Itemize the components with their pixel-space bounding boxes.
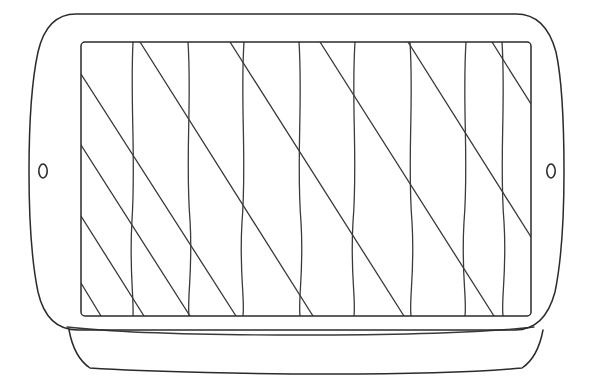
vertical-ribs-group — [131, 42, 505, 316]
diagonal-rib-6 — [230, 42, 404, 316]
diagonal-rib-8 — [408, 42, 531, 237]
diagonal-rib-5 — [140, 42, 313, 316]
handle-hole-left-icon — [39, 164, 47, 178]
diagonal-rib-4 — [81, 283, 101, 316]
vertical-rib-4 — [299, 42, 302, 316]
vertical-rib-5 — [352, 42, 355, 316]
rib-lines — [81, 42, 531, 316]
sketch-canvas — [0, 0, 592, 381]
vertical-rib-8 — [502, 42, 505, 316]
diagonal-rib-7 — [320, 42, 494, 316]
vertical-rib-2 — [188, 42, 191, 316]
handle-hole-right-icon — [547, 164, 555, 178]
vertical-rib-7 — [463, 42, 466, 316]
diagonal-rib-9 — [492, 42, 531, 104]
diagonal-rib-2 — [81, 145, 190, 316]
vertical-rib-3 — [241, 42, 244, 316]
tray-sketch — [0, 0, 592, 381]
cooking-surface-group — [81, 42, 531, 316]
vertical-rib-1 — [131, 42, 133, 316]
diagonal-rib-1 — [81, 74, 236, 316]
vertical-rib-6 — [410, 42, 413, 316]
tray-base-rim — [67, 327, 534, 335]
diagonal-rib-3 — [81, 216, 144, 316]
tray-base-group — [67, 327, 543, 374]
tray-outline — [29, 14, 564, 330]
tray-base-band — [69, 330, 543, 374]
